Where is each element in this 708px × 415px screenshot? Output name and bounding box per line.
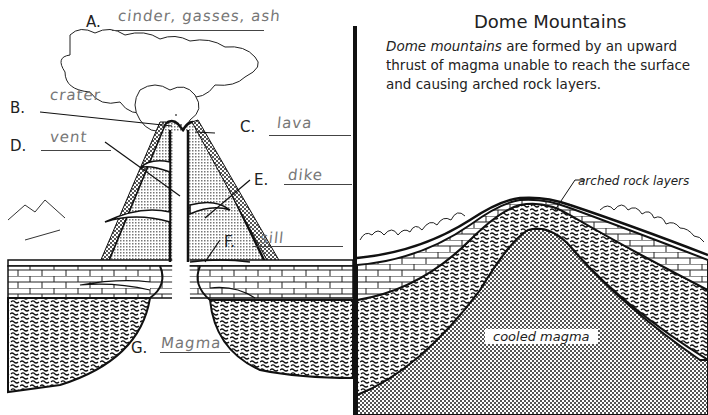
dome-title: Dome Mountains (474, 11, 626, 32)
bedrock-left (8, 298, 150, 392)
answer-line-d (41, 150, 111, 151)
answer-g: Magma (160, 334, 222, 352)
label-letter-d: D. (10, 137, 26, 155)
diagram: A. cinder, gasses, ash B. crater C. lava… (0, 0, 708, 415)
cooled-magma-label: cooled magma (485, 329, 598, 344)
label-letter-a: A. (86, 13, 101, 31)
answer-b: crater (49, 86, 102, 104)
answer-f: sill (259, 229, 285, 247)
answer-a: cinder, gasses, ash (117, 7, 282, 25)
label-letter-g: G. (131, 339, 147, 357)
answer-line-f (253, 246, 343, 247)
answer-line-g (160, 352, 230, 353)
label-letter-e: E. (254, 171, 268, 189)
bedrock-right (210, 300, 353, 378)
answer-line-c (269, 135, 351, 136)
label-letter-b: B. (10, 99, 25, 117)
ash-cloud (61, 29, 258, 131)
dome-term: Dome mountains (386, 38, 502, 54)
answer-e: dike (287, 166, 324, 184)
label-letter-c: C. (240, 118, 255, 136)
answer-d: vent (49, 128, 88, 146)
answer-line-a (112, 30, 264, 31)
arched-rock-layers-label: arched rock layers (578, 174, 689, 188)
label-letter-f: F. (224, 233, 235, 251)
answer-line-e (284, 184, 352, 185)
answer-c: lava (276, 114, 313, 132)
dome-description: Dome mountains are formed by an upward t… (386, 37, 708, 94)
